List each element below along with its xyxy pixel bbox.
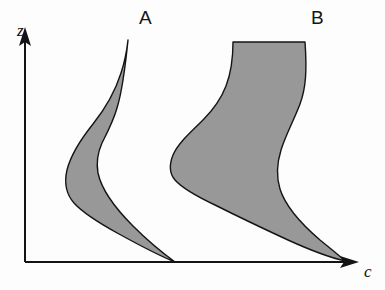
figure-canvas: z c A B xyxy=(0,0,385,290)
c-axis-label: c xyxy=(364,263,372,280)
band-B-area xyxy=(170,42,345,261)
band-B-label: B xyxy=(311,8,324,27)
z-axis-label: z xyxy=(17,22,24,39)
concentration-profile-plot xyxy=(0,0,385,290)
band-A-label: A xyxy=(139,8,152,27)
band-A-area xyxy=(66,40,175,262)
